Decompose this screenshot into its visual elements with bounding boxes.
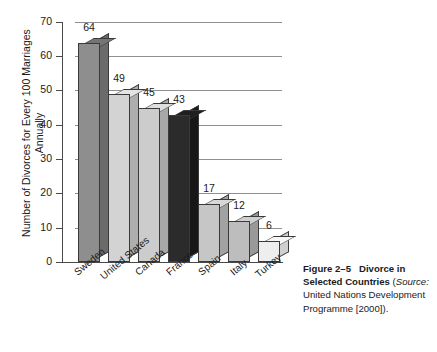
y-tick-label-30: 30 xyxy=(22,153,52,163)
bar-value-france: 43 xyxy=(159,94,199,105)
y-tick-label-20: 20 xyxy=(22,187,52,197)
y-tick-label-50: 50 xyxy=(22,84,52,94)
bar-france-front xyxy=(168,115,190,262)
bar-united-states xyxy=(108,94,130,262)
y-tick-label-0: 0 xyxy=(22,256,52,266)
y-tick-label-10: 10 xyxy=(22,222,52,232)
y-tick-label-60: 60 xyxy=(22,50,52,60)
figure-caption: Figure 2–5 Divorce in Selected Countries… xyxy=(303,262,433,315)
y-tick-30 xyxy=(56,159,63,160)
caption-source-text: United Nations Development Programme [20… xyxy=(303,289,425,313)
caption-source-label: Source: xyxy=(396,276,429,287)
bar-value-italy: 12 xyxy=(219,200,259,211)
bar-value-united-states: 49 xyxy=(99,73,139,84)
bar-value-sweden: 64 xyxy=(69,22,109,33)
y-tick-10 xyxy=(56,228,63,229)
bar-france xyxy=(168,115,190,262)
caption-figure-number: Figure 2–5 xyxy=(303,263,351,274)
y-tick-label-70: 70 xyxy=(22,16,52,26)
bar-italy xyxy=(228,221,250,262)
y-tick-20 xyxy=(56,193,63,194)
figure-container: Number of Divorces for Every 100 Marriag… xyxy=(0,0,437,352)
y-axis-line xyxy=(62,22,63,263)
bar-value-spain: 17 xyxy=(189,183,229,194)
bar-sweden-front xyxy=(78,43,100,262)
y-tick-70 xyxy=(56,22,63,23)
y-tick-50 xyxy=(56,90,63,91)
y-tick-40 xyxy=(56,125,63,126)
bar-united-states-front xyxy=(108,94,130,262)
bar-sweden xyxy=(78,43,100,262)
y-tick-0 xyxy=(56,262,63,263)
bar-value-turkey: 6 xyxy=(249,220,289,231)
bar-italy-front xyxy=(228,221,250,262)
bar-chart: Number of Divorces for Every 100 Marriag… xyxy=(0,0,292,330)
y-tick-60 xyxy=(56,56,63,57)
y-tick-label-40: 40 xyxy=(22,119,52,129)
